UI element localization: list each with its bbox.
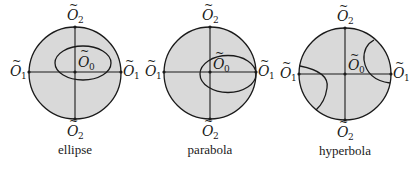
caption: ellipse: [58, 142, 92, 157]
svg-text:2: 2: [348, 132, 354, 142]
label-top: ~ O 2: [337, 0, 354, 26]
label-left: ~ O 1: [145, 55, 162, 81]
svg-text:0: 0: [359, 65, 365, 75]
point: [343, 26, 346, 29]
panel-hyperbola: ~ O 2 ~ O 2 ~ O 1 ~ O 1 ~ O 0 hyperbola: [280, 0, 410, 158]
svg-text:0: 0: [224, 64, 230, 74]
point: [162, 70, 165, 73]
point: [208, 70, 211, 73]
label-right: ~ O 1: [258, 55, 275, 81]
label-right: ~ O 1: [393, 57, 410, 83]
svg-text:1: 1: [134, 71, 140, 81]
caption: hyperbola: [319, 143, 371, 158]
point: [208, 25, 211, 28]
svg-text:0: 0: [89, 62, 95, 72]
svg-text:1: 1: [269, 71, 275, 81]
point: [343, 72, 346, 75]
point: [27, 70, 30, 73]
panel-parabola: ~ O 2 ~ O 2 ~ O 1 ~ O 1 ~ O 0 parabola: [145, 0, 275, 157]
svg-text:1: 1: [404, 73, 410, 83]
svg-text:2: 2: [78, 15, 84, 25]
svg-text:2: 2: [78, 131, 84, 141]
point: [73, 25, 76, 28]
point: [297, 72, 300, 75]
point: [73, 70, 76, 73]
svg-text:1: 1: [21, 71, 27, 81]
svg-text:2: 2: [213, 15, 219, 25]
label-top: ~ O 2: [67, 0, 84, 25]
svg-text:1: 1: [156, 71, 162, 81]
label-top: ~ O 2: [202, 0, 219, 25]
label-right: ~ O 1: [123, 55, 140, 81]
svg-text:2: 2: [348, 16, 354, 26]
caption: parabola: [188, 142, 233, 157]
panel-ellipse: ~ O 2 ~ O 2 ~ O 1 ~ O 1 ~ O 0 ellipse: [10, 0, 140, 157]
svg-text:2: 2: [213, 131, 219, 141]
label-left: ~ O 1: [10, 55, 27, 81]
svg-text:1: 1: [291, 73, 297, 83]
conic-diagram: ~ O 2 ~ O 2 ~ O 1 ~ O 1 ~ O 0 ellipse: [0, 0, 413, 169]
label-left: ~ O 1: [280, 57, 297, 83]
